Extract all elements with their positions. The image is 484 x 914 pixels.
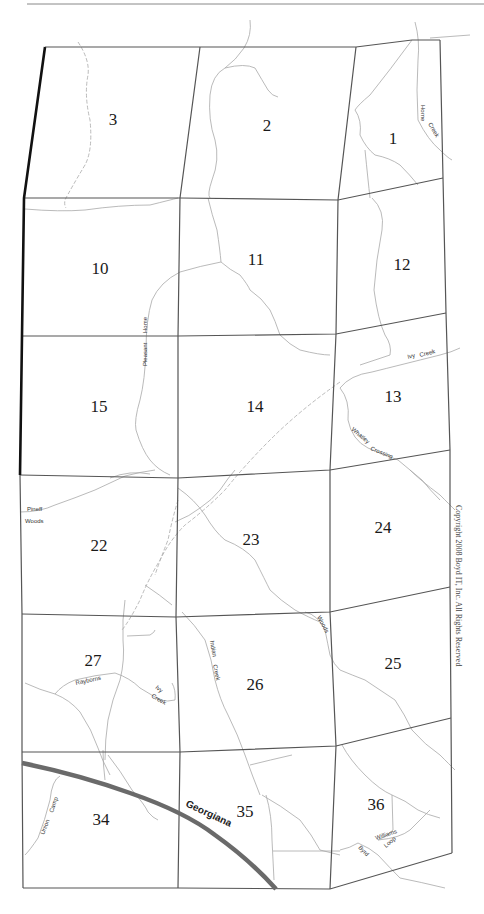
grid-row-6: [23, 853, 452, 889]
road-sec1-creek: [355, 110, 418, 185]
label-ivy-27: Ivy: [154, 684, 164, 694]
section-35: 35: [237, 802, 254, 821]
road-sec35-spur: [250, 755, 292, 765]
road-sec12-creek: [360, 198, 390, 365]
road-union-camp: [25, 776, 60, 855]
section-numbers: 1 2 3 10 11 12 13 14 15 22 23 24 25 26 2…: [85, 110, 411, 829]
label-pineff-woods: Woods: [25, 518, 44, 524]
road-sec15: [136, 430, 170, 475]
section-34: 34: [93, 810, 111, 829]
section-23: 23: [243, 530, 260, 549]
road-sec2-branch: [225, 66, 278, 98]
road-sec1-diag: [355, 40, 412, 110]
label-indian: Indian: [209, 640, 218, 657]
section-27: 27: [85, 651, 103, 670]
road-indian-creek: [182, 612, 260, 795]
highway-georgiana: [22, 763, 276, 889]
road-sec36-north: [342, 745, 440, 818]
roads: [20, 20, 470, 888]
road-sec22-spur: [145, 585, 172, 605]
label-ivy-creek-27: Creek: [151, 693, 169, 707]
county-boundary: [20, 47, 45, 475]
section-grid: [20, 40, 452, 889]
grid-row-4: [22, 587, 450, 617]
grid-row-5: [22, 718, 451, 752]
road-sec1-right: [430, 35, 470, 38]
section-11: 11: [248, 250, 264, 269]
grid-col-1: [176, 47, 200, 888]
road-sec27-north: [105, 600, 125, 760]
section-36: 36: [368, 795, 385, 814]
label-rayborns: Rayborns: [75, 675, 101, 686]
section-12: 12: [394, 255, 411, 274]
section-2: 2: [263, 116, 272, 135]
label-union: Union: [39, 819, 50, 836]
township-map: 1 2 3 10 11 12 13 14 15 22 23 24 25 26 2…: [0, 0, 484, 914]
road-sec3: [65, 42, 91, 208]
road-diag-14: [122, 382, 340, 630]
label-ivy: Ivy: [407, 352, 416, 360]
label-pineff: Pineff: [27, 506, 43, 512]
section-3: 3: [109, 110, 118, 129]
road-sec35-vert: [266, 795, 274, 880]
label-crossing: Crossing: [370, 445, 394, 459]
grid-right: [440, 40, 452, 853]
section-15: 15: [91, 397, 108, 416]
grid-left-lower: [20, 475, 23, 888]
label-byrd: Byrd: [357, 844, 370, 857]
road-sec27-spur: [127, 630, 155, 636]
highway-label-georgiana: Georgiana: [184, 798, 234, 829]
label-whatley: Whatley: [350, 426, 370, 445]
section-14: 14: [247, 397, 265, 416]
section-24: 24: [375, 518, 393, 537]
label-horne: Horne: [420, 105, 426, 122]
road-sec11-creek: [208, 198, 330, 355]
label-horne-creek: Creek: [427, 122, 441, 140]
road-horne-creek: [415, 22, 452, 160]
section-22: 22: [91, 536, 108, 555]
label-woods: Woods: [316, 615, 330, 634]
label-pleasant: Pleasant: [142, 342, 148, 366]
road-sec1-down: [365, 150, 370, 198]
road-labels: Horne Creek Pleasant Home Ivy Creek What…: [25, 105, 441, 857]
section-13: 13: [385, 387, 402, 406]
section-26: 26: [247, 675, 264, 694]
copyright-notice: Copyright 2008 Boyd IT, Inc. All Rights …: [454, 505, 463, 666]
road-sec35-diag: [262, 795, 340, 855]
road-sec27-south: [55, 694, 110, 775]
grid-top: [45, 40, 440, 47]
road-sec24: [410, 470, 455, 510]
label-home: Home: [142, 316, 148, 333]
section-10: 10: [92, 259, 109, 278]
section-1: 1: [389, 129, 398, 148]
grid-row-1: [24, 178, 443, 200]
section-25: 25: [385, 654, 402, 673]
grid-row-2: [22, 313, 446, 336]
road-ivy-creek-13: [340, 348, 460, 388]
road-sec22-dash: [155, 500, 178, 575]
road-sec10-top: [25, 198, 178, 211]
